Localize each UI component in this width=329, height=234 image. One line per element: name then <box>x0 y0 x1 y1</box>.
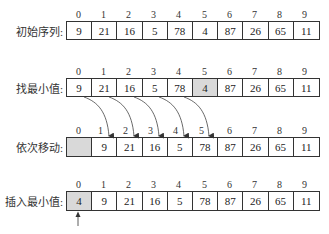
arrows-overlay <box>0 0 329 234</box>
insert-arrow-icon <box>76 212 81 227</box>
shift-arrows-icon <box>84 97 209 136</box>
